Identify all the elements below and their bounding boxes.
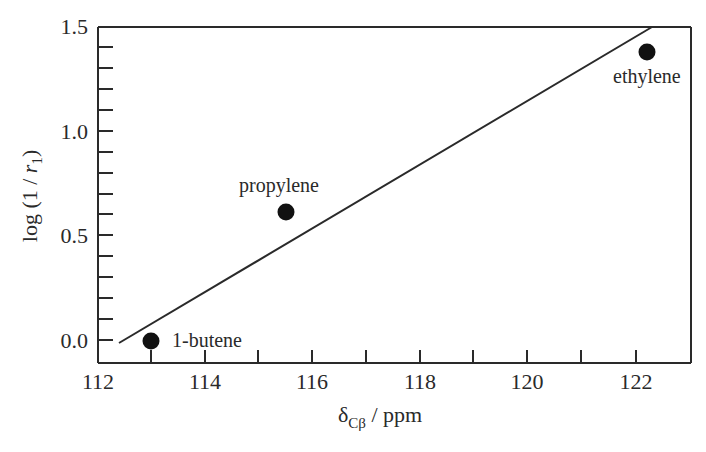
x-tick-label: 122	[620, 369, 653, 394]
x-axis-title: δCβ / ppm	[338, 402, 422, 431]
x-tick-label: 112	[82, 369, 114, 394]
data-point-1-butene	[143, 333, 160, 350]
x-tick-label: 120	[511, 369, 544, 394]
y-axis-title: log (1 / r1)	[17, 150, 45, 242]
point-label-ethylene: ethylene	[613, 65, 681, 88]
plot-frame	[98, 27, 691, 363]
data-point-ethylene	[639, 44, 656, 61]
x-tick-label: 116	[296, 369, 328, 394]
scatter-chart: 0.0 0.5 1.0 1.5 112 114 116 118 120 122 …	[0, 0, 706, 452]
y-tick-label: 0.5	[61, 223, 89, 248]
y-tick-label: 0.0	[61, 328, 89, 353]
data-point-propylene	[278, 204, 295, 221]
point-label-propylene: propylene	[239, 174, 319, 197]
x-tick-label: 118	[404, 369, 436, 394]
y-tick-label: 1.0	[61, 119, 89, 144]
x-axis-ticks	[151, 350, 636, 363]
x-tick-labels: 112 114 116 118 120 122	[82, 369, 653, 394]
data-points	[143, 44, 656, 350]
y-tick-labels: 0.0 0.5 1.0 1.5	[61, 14, 89, 353]
point-label-1-butene: 1-butene	[172, 329, 242, 351]
fit-line	[119, 27, 652, 343]
point-labels: 1-butene propylene ethylene	[172, 65, 681, 351]
y-axis-ticks	[98, 47, 113, 340]
y-tick-label: 1.5	[61, 14, 89, 39]
x-tick-label: 114	[189, 369, 221, 394]
